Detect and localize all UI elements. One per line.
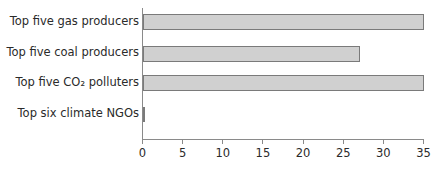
x-axis-line — [142, 139, 424, 140]
x-tick-label: 5 — [179, 146, 186, 160]
x-tick — [383, 139, 384, 144]
bar — [143, 46, 360, 62]
category-label: Top six climate NGOs — [18, 106, 139, 120]
x-tick-label: 35 — [416, 146, 431, 160]
category-label: Top five CO₂ polluters — [15, 75, 139, 89]
x-tick — [423, 139, 424, 144]
x-tick-label: 10 — [215, 146, 230, 160]
bar — [143, 107, 145, 122]
x-tick-label: 30 — [376, 146, 391, 160]
x-tick — [222, 139, 223, 144]
category-label: Top five coal producers — [6, 45, 139, 59]
x-tick — [262, 139, 263, 144]
x-tick — [182, 139, 183, 144]
x-tick-label: 25 — [336, 146, 351, 160]
bar — [143, 75, 424, 91]
x-tick-label: 20 — [296, 146, 311, 160]
x-tick-label: 0 — [139, 146, 146, 160]
bar — [143, 14, 424, 30]
x-tick — [303, 139, 304, 144]
x-tick — [142, 139, 143, 144]
category-label: Top five gas producers — [10, 14, 139, 28]
x-tick-label: 15 — [256, 146, 271, 160]
x-tick — [343, 139, 344, 144]
